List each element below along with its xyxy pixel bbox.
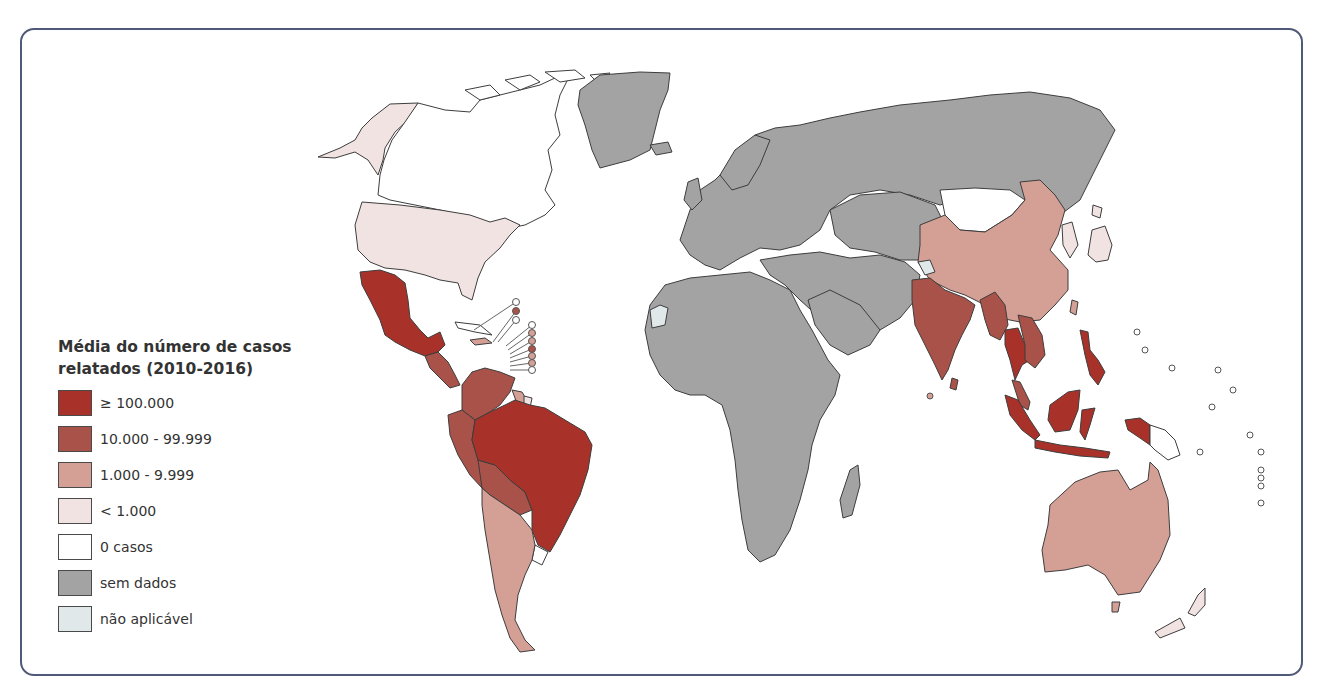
caribbean-callouts <box>474 302 532 370</box>
legend-item-under-1000: < 1.000 <box>58 498 318 524</box>
legend-swatch <box>58 426 92 452</box>
legend-item-not-applicable: não aplicável <box>58 606 318 632</box>
legend-swatch <box>58 606 92 632</box>
region-cuba <box>455 322 492 335</box>
region-mexico <box>360 270 445 356</box>
legend-item-100000-plus: ≥ 100.000 <box>58 390 318 416</box>
region-png <box>1150 425 1180 460</box>
legend-swatch <box>58 498 92 524</box>
legend-label: 10.000 - 99.999 <box>100 431 212 447</box>
region-korea <box>1062 222 1078 258</box>
legend-item-1000-9999: 1.000 - 9.999 <box>58 462 318 488</box>
legend-label: ≥ 100.000 <box>100 395 174 411</box>
legend-label: 0 casos <box>100 539 153 555</box>
legend-swatch <box>58 570 92 596</box>
legend-swatch <box>58 462 92 488</box>
region-new-zealand <box>1155 588 1205 638</box>
legend-swatch <box>58 390 92 416</box>
legend-title: Média do número de casos relatados (2010… <box>58 336 318 380</box>
caribbean-island-markers <box>513 299 536 374</box>
legend-label: não aplicável <box>100 611 193 627</box>
region-western-sahara <box>650 305 668 328</box>
region-hispaniola <box>470 338 492 345</box>
region-sulawesi <box>1080 408 1095 440</box>
region-west-papua <box>1125 418 1150 445</box>
region-java <box>1035 440 1110 458</box>
region-borneo <box>1048 390 1080 432</box>
legend-title-line1: Média do número de casos <box>58 336 318 358</box>
legend-item-no-data: sem dados <box>58 570 318 596</box>
region-africa <box>645 272 840 562</box>
legend-item-zero-cases: 0 casos <box>58 534 318 560</box>
region-taiwan <box>1070 300 1078 315</box>
legend-item-10000-99999: 10.000 - 99.999 <box>58 426 318 452</box>
region-iceland <box>650 142 672 155</box>
region-madagascar <box>840 465 860 518</box>
region-japan <box>1088 205 1112 262</box>
legend-swatch <box>58 534 92 560</box>
region-sri-lanka <box>950 378 958 390</box>
legend-label: < 1.000 <box>100 503 156 519</box>
legend-label: 1.000 - 9.999 <box>100 467 194 483</box>
region-australia <box>1042 462 1170 595</box>
region-tasmania <box>1112 602 1120 612</box>
legend-title-line2: relatados (2010-2016) <box>58 358 318 380</box>
region-philippines <box>1080 330 1105 385</box>
legend-label: sem dados <box>100 575 176 591</box>
region-central-america <box>425 352 460 388</box>
map-legend: Média do número de casos relatados (2010… <box>58 336 318 642</box>
